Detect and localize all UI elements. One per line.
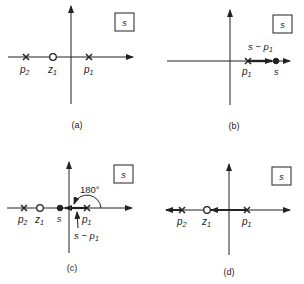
pole-label: p2: [176, 216, 187, 228]
panel-a: [8, 6, 134, 104]
test-point-label: s: [57, 214, 62, 224]
vector-label: s − p1: [74, 230, 99, 242]
pole-label: p1: [241, 66, 252, 78]
pole-label: p1: [81, 214, 92, 226]
pole-label: p2: [19, 64, 30, 76]
panel-b: [167, 10, 292, 105]
pole-label: p1: [241, 216, 252, 228]
zero-label: z1: [201, 216, 211, 228]
panel-c: [7, 162, 133, 253]
zero-label: z1: [47, 64, 57, 76]
angle-label: 180°: [80, 184, 100, 195]
zero-z1-marker: [37, 205, 44, 212]
caption: (b): [229, 121, 240, 131]
zero-z1-marker: [204, 207, 211, 214]
panel-d: [166, 164, 291, 255]
caption: (c): [67, 263, 78, 273]
test-point-s: [57, 205, 63, 211]
plane-label: s: [279, 172, 284, 182]
caption: (d): [224, 267, 235, 277]
test-point-s: [273, 58, 279, 64]
angle-arc: [74, 195, 101, 208]
vector-label: s − p1: [248, 41, 273, 53]
vector-pointer: [77, 212, 78, 228]
test-point-label: s: [274, 67, 279, 77]
plane-label: s: [122, 18, 127, 28]
pole-label: p2: [17, 214, 28, 226]
plane-label: s: [121, 170, 126, 180]
pole-label: p1: [83, 64, 94, 76]
plane-label: s: [280, 20, 285, 30]
zero-label: z1: [34, 214, 44, 226]
root-locus-figure: s p2 z1 p1 (a) s s − p1 p1 s (b) s 180° …: [0, 0, 304, 284]
caption: (a): [72, 120, 83, 130]
zero-z1-marker: [50, 54, 57, 61]
